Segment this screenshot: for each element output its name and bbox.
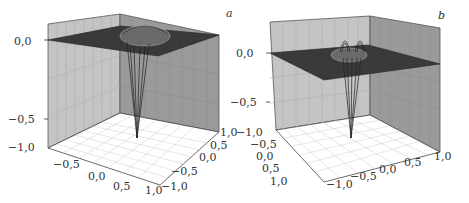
x-label-0: −1,0 xyxy=(326,178,353,191)
figure: 0,0 −0,5 −1,0 −0,5 0,0 0,5 1,0 1,0 0,5 0… xyxy=(0,0,469,203)
x-label-1: −0,5 xyxy=(350,170,377,183)
ripple-ring xyxy=(120,26,170,46)
z-label-0: 0,0 xyxy=(236,47,254,60)
y-label-4: −1,0 xyxy=(161,180,188,193)
z-label-1: −0,5 xyxy=(8,113,35,126)
x-label-1: 0,0 xyxy=(88,170,106,183)
x-label-0: −0,5 xyxy=(53,158,80,171)
panel-label-a: a xyxy=(226,7,233,20)
x-label-4: 1,0 xyxy=(434,150,452,163)
x-label-3: 1,0 xyxy=(145,184,163,197)
y-label-2: 0,5 xyxy=(262,162,280,175)
y-label-2: 0,0 xyxy=(199,151,217,164)
y-label-3: 1,0 xyxy=(270,175,288,188)
ripple-ring xyxy=(331,48,367,62)
x-label-3: 0,5 xyxy=(404,156,422,169)
z-label-2: −1,0 xyxy=(8,141,35,154)
x-label-2: 0,5 xyxy=(113,180,131,193)
panel-a: 0,0 −0,5 −1,0 −0,5 0,0 0,5 1,0 1,0 0,5 0… xyxy=(8,7,238,197)
x-label-2: 0,0 xyxy=(379,163,397,176)
panel-label-b: b xyxy=(438,9,445,22)
y-label-3: −0,5 xyxy=(171,165,198,178)
z-label-0: 0,0 xyxy=(14,35,32,48)
panel-b: 0,0 −0,5 −1,0 −0,5 0,0 0,5 1,0 −1,0 −0,5… xyxy=(230,9,452,191)
z-label-1: −0,5 xyxy=(230,96,257,109)
y-label-0: 1,0 xyxy=(220,126,238,139)
